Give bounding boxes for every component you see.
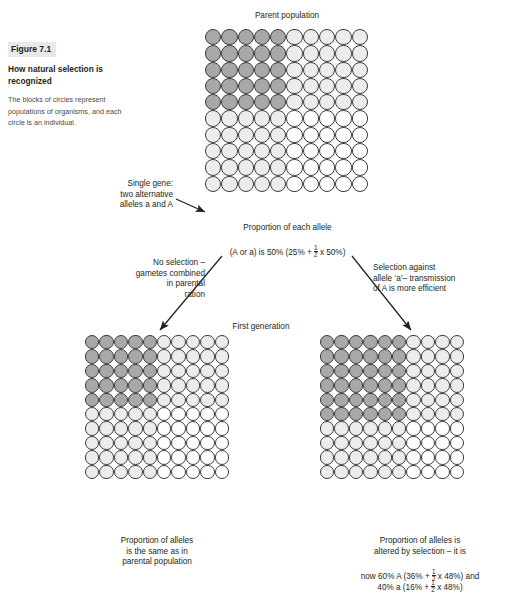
individual-circle	[157, 436, 171, 450]
individual-circle	[378, 335, 392, 349]
individual-circle	[205, 45, 221, 61]
individual-circle	[114, 421, 128, 435]
individual-circle	[450, 450, 464, 464]
individual-circle	[200, 393, 214, 407]
parent-population-caption-line2: (A or a) is 50% (25% + 12 x 50%)	[200, 234, 375, 258]
individual-circle	[157, 465, 171, 479]
individual-circle	[392, 393, 406, 407]
individual-circle	[352, 78, 368, 94]
individual-circle	[303, 45, 319, 61]
individual-circle	[450, 364, 464, 378]
individual-circle	[186, 378, 200, 392]
individual-circle	[85, 421, 99, 435]
individual-circle	[270, 45, 286, 61]
individual-circle	[378, 349, 392, 363]
individual-circle	[171, 407, 185, 421]
individual-circle	[352, 143, 368, 159]
individual-circle	[128, 436, 142, 450]
individual-circle	[99, 364, 113, 378]
individual-circle	[221, 159, 237, 175]
individual-circle	[421, 450, 435, 464]
individual-circle	[186, 407, 200, 421]
individual-circle	[238, 45, 254, 61]
individual-circle	[320, 335, 334, 349]
individual-circle	[363, 421, 377, 435]
single-gene-annotation: Single gene: two alternative alleles a a…	[78, 179, 173, 211]
individual-circle	[363, 364, 377, 378]
individual-circle	[363, 349, 377, 363]
individual-circle	[378, 450, 392, 464]
individual-circle	[99, 450, 113, 464]
individual-circle	[378, 407, 392, 421]
individual-circle	[205, 176, 221, 192]
individual-circle	[363, 393, 377, 407]
individual-circle	[157, 421, 171, 435]
individual-circle	[406, 349, 420, 363]
individual-circle	[128, 465, 142, 479]
individual-circle	[205, 78, 221, 94]
individual-circle	[319, 45, 335, 61]
branch-label-selection-against: Selection against allele ‘a’– transmissi…	[373, 263, 503, 295]
individual-circle	[171, 349, 185, 363]
individual-circle	[238, 159, 254, 175]
individual-circle	[406, 436, 420, 450]
individual-circle	[378, 465, 392, 479]
parent-population-caption-line1: Proportion of each allele	[200, 223, 375, 234]
individual-circle	[392, 364, 406, 378]
individual-circle	[254, 110, 270, 126]
individual-circle	[303, 110, 319, 126]
individual-circle	[435, 393, 449, 407]
individual-circle	[157, 450, 171, 464]
individual-circle	[215, 450, 229, 464]
individual-circle	[392, 421, 406, 435]
individual-circle	[270, 159, 286, 175]
individual-circle	[114, 407, 128, 421]
individual-circle	[254, 94, 270, 110]
individual-circle	[254, 78, 270, 94]
individual-circle	[320, 393, 334, 407]
first-generation-right-grid	[320, 335, 464, 479]
individual-circle	[221, 62, 237, 78]
individual-circle	[143, 335, 157, 349]
first-generation-right-caption-line1: Proportion of alleles is	[330, 536, 510, 547]
first-generation-right-caption-line4: 40% a (16% + 12 x 48%)	[330, 569, 510, 593]
individual-circle	[114, 378, 128, 392]
individual-circle	[270, 29, 286, 45]
individual-circle	[421, 335, 435, 349]
individual-circle	[435, 407, 449, 421]
individual-circle	[200, 465, 214, 479]
individual-circle	[85, 465, 99, 479]
individual-circle	[303, 143, 319, 159]
first-generation-left-grid	[85, 335, 229, 479]
individual-circle	[303, 94, 319, 110]
individual-circle	[378, 393, 392, 407]
individual-circle	[85, 364, 99, 378]
individual-circle	[363, 335, 377, 349]
individual-circle	[392, 436, 406, 450]
individual-circle	[114, 465, 128, 479]
individual-circle	[349, 450, 363, 464]
individual-circle	[303, 62, 319, 78]
individual-circle	[85, 450, 99, 464]
individual-circle	[335, 127, 351, 143]
individual-circle	[406, 465, 420, 479]
individual-circle	[286, 29, 302, 45]
individual-circle	[128, 421, 142, 435]
individual-circle	[143, 450, 157, 464]
individual-circle	[238, 127, 254, 143]
arrow-single-gene	[176, 199, 205, 212]
individual-circle	[200, 421, 214, 435]
individual-circle	[286, 62, 302, 78]
individual-circle	[406, 335, 420, 349]
individual-circle	[335, 78, 351, 94]
individual-circle	[335, 159, 351, 175]
individual-circle	[319, 127, 335, 143]
individual-circle	[421, 349, 435, 363]
individual-circle	[335, 176, 351, 192]
individual-circle	[334, 335, 348, 349]
individual-circle	[254, 176, 270, 192]
individual-circle	[221, 176, 237, 192]
individual-circle	[186, 450, 200, 464]
individual-circle	[450, 378, 464, 392]
individual-circle	[435, 465, 449, 479]
